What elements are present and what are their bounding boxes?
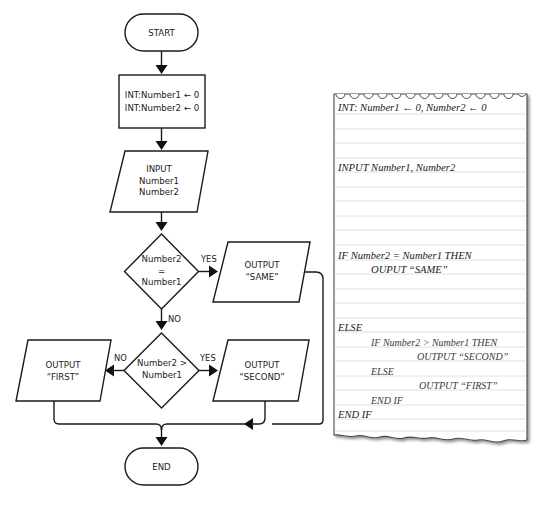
decision2-line-1: Number2 >	[137, 358, 187, 368]
pseudocode-line: INT: Number1 ← 0, Number2 ← 0	[337, 102, 487, 113]
pseudocode-line: OUTPUT “SECOND”	[417, 351, 509, 362]
declare-line-2: INT:Number2 ← 0	[125, 103, 199, 113]
input-line-2: Number1	[139, 176, 179, 186]
decision1-yes-label: YES	[200, 254, 217, 264]
end-label: END	[152, 462, 171, 472]
decision2-line-2: Number1	[142, 370, 182, 380]
declare-process: INT:Number1 ← 0 INT:Number2 ← 0	[119, 75, 205, 128]
pseudocode-line: ELSE	[370, 366, 394, 377]
arrow-icon	[156, 141, 168, 150]
decision1-no-label: NO	[168, 314, 181, 324]
arrow-icon	[244, 418, 253, 430]
output-second-parallelogram: OUTPUT “SECOND”	[213, 340, 309, 401]
pseudocode-line: OUTPUT “FIRST”	[419, 380, 498, 391]
flowchart: START INT:Number1 ← 0 INT:Number2 ← 0 IN…	[16, 14, 323, 485]
declare-line-1: INT:Number1 ← 0	[125, 90, 199, 100]
arrow-icon	[156, 65, 168, 74]
pseudocode-line: OUPUT “SAME”	[371, 264, 448, 275]
notepad: INT: Number1 ← 0, Number2 ← 0 INPUT Numb…	[334, 94, 527, 442]
output-second-line-1: OUTPUT	[244, 360, 280, 370]
start-label: START	[148, 28, 175, 38]
pseudocode-line: INPUT Number1, Number2	[337, 162, 456, 173]
arrow-icon	[209, 266, 218, 278]
input-line-1: INPUT	[146, 164, 172, 174]
input-line-3: Number2	[139, 187, 179, 197]
decision1-line-2: =	[158, 266, 165, 276]
pseudocode-line: IF Number2 = Number1 THEN	[337, 250, 473, 261]
decision1-line-1: Number2	[142, 254, 182, 264]
decision-equal: Number2 = Number1	[125, 234, 199, 309]
arrow-icon	[156, 222, 168, 231]
pseudocode-line: IF Number2 > Number1 THEN	[370, 337, 499, 348]
pseudocode-line: ELSE	[337, 322, 363, 333]
output-same-line-2: “SAME”	[245, 272, 278, 282]
end-terminator: END	[125, 448, 198, 485]
input-parallelogram: INPUT Number1 Number2	[110, 151, 208, 212]
arrow-icon	[156, 321, 168, 330]
diagram-canvas: START INT:Number1 ← 0 INT:Number2 ← 0 IN…	[0, 0, 543, 505]
decision2-yes-label: YES	[199, 353, 216, 363]
output-first-line-1: OUTPUT	[45, 360, 81, 370]
decision-greater: Number2 > Number1	[124, 333, 199, 408]
output-second-line-2: “SECOND”	[239, 372, 284, 382]
arrow-icon	[156, 437, 168, 446]
decision2-no-label: NO	[114, 353, 127, 363]
start-terminator: START	[125, 14, 198, 51]
pseudocode-line: END IF	[370, 395, 404, 406]
pseudocode-line: END IF	[337, 409, 372, 420]
output-first-line-2: “FIRST”	[47, 372, 80, 382]
arrow-icon	[209, 365, 218, 377]
output-first-parallelogram: OUTPUT “FIRST”	[16, 340, 111, 401]
output-same-parallelogram: OUTPUT “SAME”	[213, 242, 310, 302]
decision1-line-3: Number1	[142, 277, 182, 287]
output-same-line-1: OUTPUT	[244, 260, 280, 270]
